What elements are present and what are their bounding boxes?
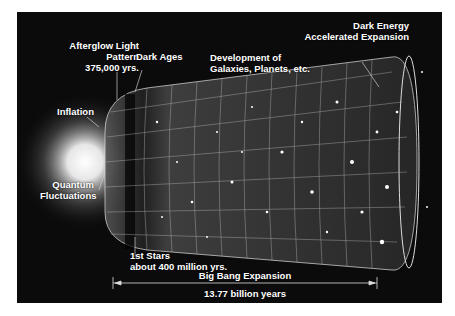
dark-energy-label: Dark Energy Accelerated Expansion <box>282 20 409 42</box>
afterglow-line1: Afterglow Light <box>52 40 139 51</box>
dark-energy-line1: Dark Energy <box>282 20 409 31</box>
first-stars-label: 1st Stars about 400 million yrs. <box>130 250 227 272</box>
universe-timeline-diagram: Afterglow Light Pattern 375,000 yrs. Dar… <box>17 12 442 303</box>
first-stars-line1: 1st Stars <box>130 250 227 261</box>
quantum-line1: Quantum <box>40 179 94 190</box>
afterglow-line2: Pattern <box>52 51 139 62</box>
duration-label: 13.77 billion years <box>113 288 377 299</box>
inflation-label: Inflation <box>57 106 94 117</box>
quantum-fluctuations-label: Quantum Fluctuations <box>40 179 94 201</box>
dark-energy-line2: Accelerated Expansion <box>282 31 409 42</box>
development-line1: Development of <box>210 52 310 63</box>
development-label: Development of Galaxies, Planets, etc. <box>210 52 310 74</box>
big-bang-expansion-label: Big Bang Expansion <box>113 270 377 281</box>
afterglow-label: Afterglow Light Pattern 375,000 yrs. <box>52 40 139 73</box>
afterglow-line3: 375,000 yrs. <box>52 62 139 73</box>
quantum-line2: Fluctuations <box>40 190 94 201</box>
dark-ages-label: Dark Ages <box>136 51 183 62</box>
development-line2: Galaxies, Planets, etc. <box>210 63 310 74</box>
